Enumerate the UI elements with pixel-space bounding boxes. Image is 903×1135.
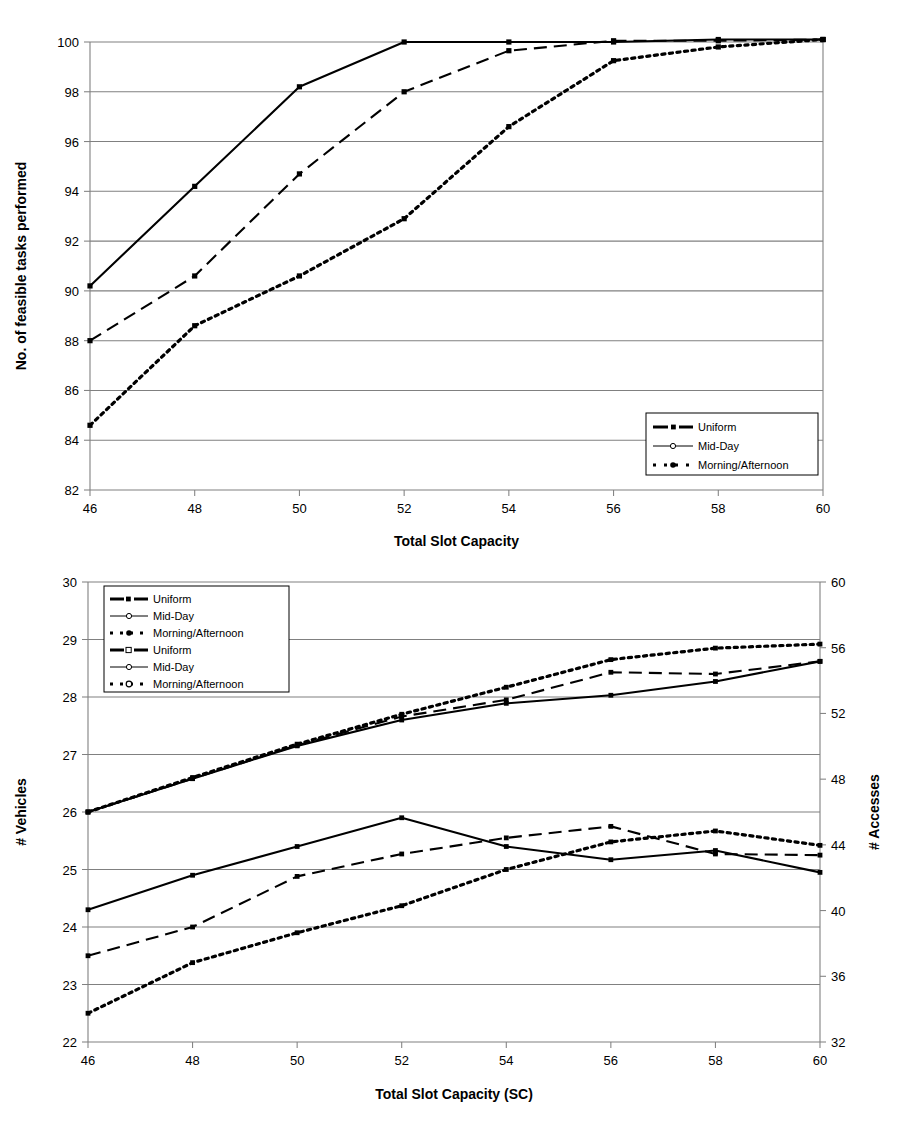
series-marker: [504, 685, 509, 690]
y-tick-label: 92: [65, 234, 79, 249]
y-tick-label: 24: [63, 920, 77, 935]
y-tick-label: 28: [63, 690, 77, 705]
series-marker: [713, 852, 718, 857]
y-axis-title: No. of feasible tasks performed: [13, 162, 29, 371]
series-marker: [86, 810, 91, 815]
y2-tick-label: 48: [831, 772, 845, 787]
legend-marker: [671, 425, 676, 430]
bottom-chart-figure: 2223242526272829303236404448525660464850…: [0, 560, 903, 1135]
series-marker: [608, 857, 613, 862]
y-tick-label: 90: [65, 284, 79, 299]
series-marker: [713, 829, 718, 834]
y-tick-label: 88: [65, 334, 79, 349]
legend-label: Mid-Day: [153, 610, 194, 622]
x-tick-label: 48: [185, 1053, 199, 1068]
legend-marker: [126, 647, 131, 652]
series-marker: [402, 39, 407, 44]
series-marker: [190, 873, 195, 878]
series-marker: [818, 659, 823, 664]
x-tick-label: 58: [708, 1053, 722, 1068]
series-line-1: [88, 826, 820, 955]
series-marker: [297, 84, 302, 89]
legend-marker: [126, 613, 131, 618]
y-tick-label: 22: [63, 1035, 77, 1050]
x-tick-label: 46: [83, 501, 97, 516]
y-tick-label: 30: [63, 575, 77, 590]
legend-marker: [670, 462, 676, 468]
series-marker: [295, 874, 300, 879]
series-line-2: [90, 40, 823, 426]
series-marker: [713, 646, 718, 651]
legend-label: Morning/Afternoon: [153, 678, 244, 690]
series-marker: [504, 697, 509, 702]
legend-label: Morning/Afternoon: [698, 459, 789, 471]
series-marker: [818, 853, 823, 858]
series-marker: [608, 670, 613, 675]
series-line-0: [90, 40, 823, 286]
series-marker: [399, 852, 404, 857]
series-marker: [506, 48, 511, 53]
series-marker: [716, 38, 721, 43]
y2-tick-label: 36: [831, 969, 845, 984]
series-line-0: [88, 818, 820, 910]
x-tick-label: 58: [711, 501, 725, 516]
series-marker: [611, 38, 616, 43]
series-marker: [297, 273, 302, 278]
series-marker: [87, 338, 92, 343]
y-tick-label: 86: [65, 383, 79, 398]
y-tick-label: 29: [63, 633, 77, 648]
series-marker: [716, 44, 721, 49]
x-tick-label: 48: [187, 501, 201, 516]
series-marker: [818, 843, 823, 848]
legend-label: Morning/Afternoon: [153, 627, 244, 639]
series-marker: [297, 171, 302, 176]
series-marker: [399, 712, 404, 717]
y2-tick-label: 56: [831, 641, 845, 656]
x-tick-label: 54: [502, 501, 516, 516]
x-tick-label: 52: [394, 1053, 408, 1068]
series-marker: [87, 423, 92, 428]
legend-label: Mid-Day: [153, 661, 194, 673]
series-marker: [820, 37, 825, 42]
series-marker: [504, 835, 509, 840]
series-marker: [608, 693, 613, 698]
series-marker: [295, 930, 300, 935]
x-tick-label: 56: [606, 501, 620, 516]
legend-marker: [126, 597, 131, 602]
y-tick-label: 96: [65, 135, 79, 150]
series-marker: [190, 960, 195, 965]
bottom-chart-svg: 2223242526272829303236404448525660464850…: [0, 560, 903, 1135]
y2-tick-label: 32: [831, 1035, 845, 1050]
series-marker: [295, 844, 300, 849]
x-tick-label: 50: [292, 501, 306, 516]
series-marker: [504, 844, 509, 849]
series-marker: [818, 642, 823, 647]
legend: UniformMid-DayMorning/Afternoon: [646, 413, 818, 475]
series-marker: [192, 323, 197, 328]
series-marker: [713, 672, 718, 677]
series-marker: [190, 775, 195, 780]
y-tick-label: 100: [57, 35, 79, 50]
top-chart-svg: 8284868890929496981004648505254565860No.…: [0, 0, 903, 560]
series-marker: [611, 58, 616, 63]
y2-tick-label: 52: [831, 706, 845, 721]
series-marker: [86, 1011, 91, 1016]
x-tick-label: 50: [290, 1053, 304, 1068]
y-tick-label: 27: [63, 748, 77, 763]
x-axis-title: Total Slot Capacity (SC): [375, 1086, 533, 1102]
x-tick-label: 52: [397, 501, 411, 516]
series-marker: [399, 903, 404, 908]
y-tick-label: 94: [65, 184, 79, 199]
series-marker: [506, 39, 511, 44]
legend-marker: [126, 664, 131, 669]
y-tick-label: 82: [65, 483, 79, 498]
y-tick-label: 25: [63, 863, 77, 878]
y2-tick-label: 40: [831, 904, 845, 919]
series-marker: [402, 89, 407, 94]
series-marker: [608, 840, 613, 845]
series-line-2: [88, 831, 820, 1013]
series-marker: [190, 925, 195, 930]
x-tick-label: 46: [81, 1053, 95, 1068]
y-tick-label: 84: [65, 433, 79, 448]
series-marker: [504, 867, 509, 872]
